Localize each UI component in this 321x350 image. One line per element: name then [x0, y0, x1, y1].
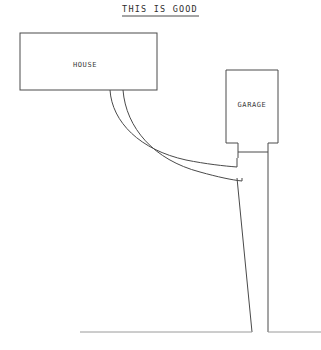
- walkway-left-curve: [110, 90, 237, 167]
- garage-outline: [226, 70, 278, 152]
- site-plan-diagram: THIS IS GOOD HOUSE GARAGE: [0, 0, 321, 350]
- garage-label: GARAGE: [238, 101, 267, 109]
- walkway-right-curve: [123, 90, 242, 181]
- house-label: HOUSE: [73, 61, 97, 69]
- driveway-left-edge: [237, 178, 252, 332]
- site-plan-drawing: THIS IS GOOD HOUSE GARAGE: [0, 0, 321, 350]
- diagram-title: THIS IS GOOD: [122, 4, 198, 14]
